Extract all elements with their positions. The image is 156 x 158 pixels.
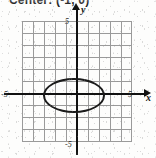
x-axis-label: x <box>146 92 151 103</box>
y-axis-label: y <box>81 4 85 15</box>
y-tick-label-five: 5 <box>65 17 69 26</box>
graph-figure: Center: (-1, 0) x y -5 5 5 -5 <box>0 0 156 158</box>
x-tick-label-five: 5 <box>128 90 132 99</box>
y-axis-arrow-icon <box>72 3 80 10</box>
ellipse-curve <box>43 78 105 113</box>
y-tick-label-negative-five: -5 <box>65 140 72 149</box>
x-tick-label-negative-five: -5 <box>1 90 8 99</box>
